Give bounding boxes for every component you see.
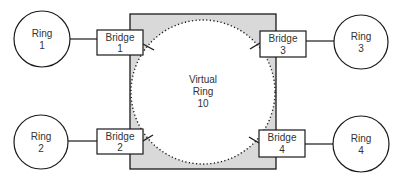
virtual-ring-bridging-diagram: Ring 1 Ring 2 Ring 3 Ring 4 Bridge 1 Bri… — [0, 0, 402, 181]
bridge-4: Bridge 4 — [259, 130, 305, 157]
bridge-1-label: Bridge — [106, 32, 135, 43]
bridge-3: Bridge 3 — [260, 31, 306, 57]
ring-1-number: 1 — [39, 40, 45, 51]
ring-3-number: 3 — [358, 43, 364, 54]
bridge-2-number: 2 — [117, 142, 123, 153]
bridge-2-label: Bridge — [106, 131, 135, 142]
ring-2: Ring 2 — [14, 115, 68, 169]
virtual-ring-label-line1: Virtual — [189, 74, 217, 85]
ring-3-label: Ring — [351, 31, 372, 42]
bridge-4-number: 4 — [279, 144, 285, 155]
ring-2-number: 2 — [38, 143, 44, 154]
virtual-ring-number: 10 — [197, 98, 209, 109]
ring-4-label: Ring — [351, 133, 372, 144]
bridge-2: Bridge 2 — [97, 129, 143, 154]
virtual-ring-label-line2: Ring — [193, 86, 214, 97]
ring-4-number: 4 — [358, 145, 364, 156]
bridge-1: Bridge 1 — [97, 30, 143, 55]
ring-4: Ring 4 — [333, 116, 389, 172]
ring-3: Ring 3 — [334, 15, 388, 69]
bridge-3-label: Bridge — [269, 33, 298, 44]
bridge-4-label: Bridge — [268, 132, 297, 143]
bridge-1-number: 1 — [117, 43, 123, 54]
ring-2-label: Ring — [31, 131, 52, 142]
ring-1-label: Ring — [32, 28, 53, 39]
ring-1: Ring 1 — [14, 11, 70, 67]
bridge-3-number: 3 — [280, 45, 286, 56]
